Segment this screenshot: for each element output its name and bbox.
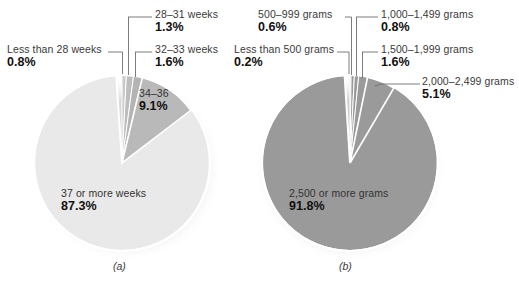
label-1500-1999-grams-category: 1,500–1,999 grams [381, 44, 473, 55]
pie-chart-b [262, 75, 438, 251]
label-2000-2499-grams: 2,000–2,499 grams 5.1% [422, 76, 514, 102]
leader-line-1500-1999-grams [362, 52, 378, 78]
label-less-than-28-weeks: Less than 28 weeks 0.8% [7, 44, 102, 70]
label-28-31-weeks-category: 28–31 weeks [155, 9, 218, 20]
label-less-than-500-grams: Less than 500 grams 0.2% [234, 44, 334, 70]
label-less-than-28-weeks-value: 0.8% [7, 56, 102, 70]
label-2000-2499-grams-category: 2,000–2,499 grams [422, 76, 514, 87]
leader-line-less-than-28-weeks [108, 52, 123, 74]
leader-line-32-33-weeks [135, 52, 152, 77]
caption-b: (b) [339, 260, 352, 272]
leader-line-28-31-weeks [128, 17, 152, 75]
leader-line-less-than-500-grams [337, 52, 349, 74]
label-32-33-weeks-category: 32–33 weeks [155, 44, 218, 55]
label-28-31-weeks-value: 1.3% [155, 21, 218, 35]
label-34-36-weeks: 34–36 9.1% [139, 88, 169, 114]
label-1000-1499-grams: 1,000–1,499 grams 0.8% [381, 9, 473, 35]
leader-line-500-999-grams [345, 17, 352, 75]
label-1500-1999-grams-value: 1.6% [381, 56, 473, 70]
label-less-than-500-grams-value: 0.2% [234, 56, 334, 70]
label-500-999-grams: 500–999 grams 0.6% [258, 9, 332, 35]
label-less-than-500-grams-category: Less than 500 grams [234, 44, 334, 55]
label-500-999-grams-value: 0.6% [258, 21, 332, 35]
label-34-36-weeks-value: 9.1% [139, 100, 169, 114]
label-1000-1499-grams-value: 0.8% [381, 21, 473, 35]
label-37-or-more-weeks-category: 37 or more weeks [61, 188, 146, 199]
label-2500-or-more-grams: 2,500 or more grams 91.8% [289, 188, 388, 214]
label-32-33-weeks: 32–33 weeks 1.6% [155, 44, 218, 70]
label-2500-or-more-grams-value: 91.8% [289, 200, 388, 214]
leader-line-1000-1499-grams [356, 17, 378, 76]
label-28-31-weeks: 28–31 weeks 1.3% [155, 9, 218, 35]
pie-chart-a [34, 75, 210, 251]
label-500-999-grams-category: 500–999 grams [258, 9, 332, 20]
label-1000-1499-grams-category: 1,000–1,499 grams [381, 9, 473, 20]
label-37-or-more-weeks-value: 87.3% [61, 200, 146, 214]
label-2000-2499-grams-value: 5.1% [422, 88, 514, 102]
label-37-or-more-weeks: 37 or more weeks 87.3% [61, 188, 146, 214]
label-34-36-weeks-category: 34–36 [139, 88, 169, 99]
label-2500-or-more-grams-category: 2,500 or more grams [289, 188, 388, 199]
caption-a: (a) [113, 260, 126, 272]
label-32-33-weeks-value: 1.6% [155, 56, 218, 70]
label-1500-1999-grams: 1,500–1,999 grams 1.6% [381, 44, 473, 70]
figure-canvas: Less than 28 weeks 0.8% 28–31 weeks 1.3%… [0, 0, 519, 281]
pie-a-leader-lines [108, 17, 152, 77]
label-less-than-28-weeks-category: Less than 28 weeks [7, 44, 102, 55]
